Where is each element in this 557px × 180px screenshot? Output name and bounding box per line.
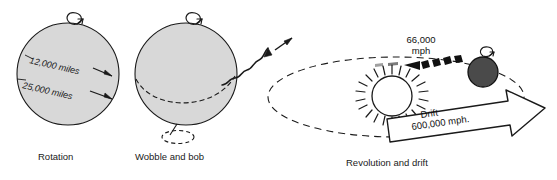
panel-rotation: 12,000 miles 25,000 miles Rotation (17, 13, 119, 162)
panel-revolution: 66,000 mph Drift 600,000 mph. Revolution… (268, 34, 545, 168)
panel-wobble: Wobble and bob (135, 13, 292, 162)
rotation-curl-icon (67, 13, 83, 25)
orbital-speed-value: 66,000 (406, 34, 435, 45)
rotation-curl-icon (186, 13, 202, 25)
earth-motions-figure: 12,000 miles 25,000 miles Rotation (0, 0, 557, 180)
rotation-curl-icon (481, 47, 494, 57)
caption-revolution: Revolution and drift (346, 157, 428, 168)
secondary-arrow-icon (275, 38, 292, 50)
dashed-ellipse-icon (162, 131, 194, 144)
caption-wobble: Wobble and bob (135, 151, 204, 162)
earth-icon (468, 57, 498, 87)
wobble-sphere (135, 23, 237, 125)
orbital-speed-unit: mph (412, 45, 430, 56)
polar-axis-line (170, 124, 177, 135)
caption-rotation: Rotation (38, 151, 73, 162)
